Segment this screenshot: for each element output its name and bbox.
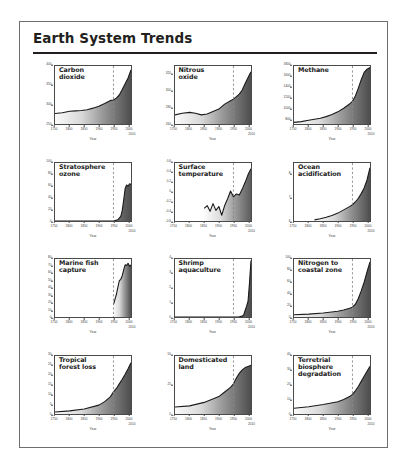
y-axis-ticks: 020406080100 [35,162,53,222]
x-axis-ticks: 1750180018501900195020002010 [54,222,132,234]
x-tick-mark [84,125,85,127]
x-tick-label: 1900 [215,418,222,421]
chart-title: Ocean acidification [298,164,341,178]
x-tick-mark [368,222,369,224]
y-tick-mark [171,161,173,162]
x-tick-label: 1800 [185,418,192,421]
x-tick-mark [99,222,100,224]
y-axis-ticks: 678 [274,162,292,222]
x-tick-mark [323,125,324,127]
x-tick-label-end: 2010 [368,133,375,136]
x-tick-label: 1950 [230,225,237,228]
x-tick-label: 2000 [245,418,252,421]
x-tick-label-end: 2010 [129,133,136,136]
y-axis-ticks: 01234 [155,258,173,318]
x-tick-label: 1950 [350,418,357,421]
chart-cell: % loss (area)051015202530Tropical forest… [27,349,145,445]
x-tick-label: 1800 [66,321,73,324]
x-axis-ticks: 1750180018501900195020002010 [293,415,371,427]
y-axis-ticks: 02550 [155,355,173,415]
x-tick-mark [368,415,369,417]
x-tick-label-end: 2010 [248,230,255,233]
x-tick-label: 1900 [96,321,103,324]
y-tick-mark [171,288,173,289]
y-tick-mark [51,384,53,385]
x-tick-label: 1900 [335,418,342,421]
x-tick-label: 1900 [335,225,342,228]
x-tick-label-end: 2010 [248,423,255,426]
x-tick-label: 1950 [350,225,357,228]
x-tick-label: 1800 [66,225,73,228]
y-tick-mark [171,384,173,385]
x-axis-ticks: 1750180018501900195020002010 [174,125,252,137]
y-tick-mark [51,161,53,162]
x-tick-label: 2000 [126,225,133,228]
y-axis-ticks: 020406080100 [274,258,292,318]
x-tick-label: 1800 [185,128,192,131]
x-axis-ticks: 1750180018501900195020002010 [54,318,132,330]
x-tick-mark [218,222,219,224]
x-tick-label: 1800 [185,225,192,228]
chart-title: Surface temperature [179,164,223,178]
x-tick-mark [129,415,130,417]
screenshot-root: Earth System Trends Atmospheric conc., p… [0,0,408,471]
y-tick-mark [171,273,173,274]
y-axis-ticks: 80010001200140016001800 [274,65,292,125]
y-tick-mark [51,295,53,296]
x-tick-mark [233,222,234,224]
x-tick-label: 1850 [200,225,207,228]
y-tick-mark [171,191,173,192]
x-axis-label: Year [293,428,371,431]
y-tick-mark [171,108,173,109]
x-tick-label: 1900 [215,321,222,324]
x-tick-mark [308,415,309,417]
x-tick-label: 2000 [126,418,133,421]
x-tick-label: 1950 [350,321,357,324]
y-tick-mark [51,258,53,259]
x-tick-label-end: 2010 [129,423,136,426]
chart-cell: % loss020406080100Stratosphere ozone1750… [27,156,145,252]
x-tick-mark [203,318,204,320]
x-tick-label: 1900 [335,128,342,131]
x-tick-mark [248,222,249,224]
x-tick-mark [353,125,354,127]
x-tick-label: 1900 [335,321,342,324]
x-tick-mark [323,415,324,417]
y-tick-mark [51,310,53,311]
x-tick-label: 1750 [170,128,177,131]
y-tick-mark [51,404,53,405]
y-tick-mark [171,354,173,355]
y-tick-mark [171,181,173,182]
x-tick-mark [353,318,354,320]
y-tick-mark [171,211,173,212]
x-tick-mark [188,318,189,320]
x-axis-ticks: 1750180018501900195020002010 [293,125,371,137]
x-tick-label: 2000 [365,128,372,131]
x-tick-label: 2000 [365,418,372,421]
y-tick-mark [290,197,292,198]
x-tick-mark [338,415,339,417]
x-tick-label: 1950 [111,225,118,228]
x-tick-label: 1750 [51,225,58,228]
x-axis-ticks: 1750180018501900195020002010 [54,415,132,427]
x-tick-mark [293,222,294,224]
x-tick-mark [114,222,115,224]
y-tick-mark [290,87,292,88]
x-tick-label: 1850 [200,128,207,131]
x-tick-label: 1900 [215,225,222,228]
chart-cell: % mean species abundance010203040Terretr… [266,349,384,445]
y-tick-mark [290,97,292,98]
chart-cell: Atmospheric conc., ppb800100012001400160… [266,59,384,155]
x-tick-label: 1900 [215,128,222,131]
y-tick-mark [290,258,292,259]
x-tick-mark [308,125,309,127]
y-axis-ticks: 01020304050607080 [35,258,53,318]
x-tick-label: 1950 [111,418,118,421]
x-tick-label: 1800 [66,418,73,421]
page-title: Earth System Trends [33,30,192,46]
y-tick-mark [171,201,173,202]
chart-title: Carbon dioxide [59,67,85,81]
x-axis-ticks: 1750180018501900195020002010 [293,318,371,330]
x-tick-label: 1750 [51,418,58,421]
x-tick-label: 1850 [81,225,88,228]
